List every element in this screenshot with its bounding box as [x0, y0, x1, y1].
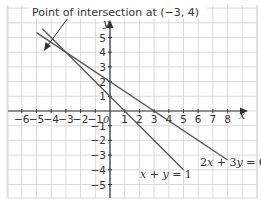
- svg-text:−3: −3: [58, 113, 73, 125]
- svg-text:−2: −2: [91, 134, 106, 146]
- svg-text:−5: −5: [91, 179, 106, 191]
- svg-text:−6: −6: [14, 113, 30, 125]
- svg-text:4: 4: [99, 46, 106, 58]
- svg-text:5: 5: [99, 32, 106, 44]
- svg-text:−3: −3: [91, 149, 106, 161]
- svg-text:5: 5: [180, 113, 187, 125]
- axes: [8, 20, 248, 198]
- svg-text:3: 3: [99, 61, 106, 73]
- line-label-x-plus-y: x + y = 1: [140, 168, 192, 181]
- intersection-annotation: Point of intersection at (−3, 4): [32, 6, 199, 19]
- x-axis-label: x: [239, 109, 246, 122]
- line-x-plus-y-eq-1: [42, 29, 183, 170]
- svg-text:−4: −4: [91, 164, 107, 176]
- svg-text:8: 8: [224, 113, 231, 125]
- svg-text:6: 6: [195, 113, 202, 125]
- svg-text:−5: −5: [29, 113, 44, 125]
- svg-text:1: 1: [121, 113, 128, 125]
- line-graph: −6−5−4−3−2−11234567854321−1−2−3−4−5 Poin…: [0, 0, 261, 208]
- plot-lines: [37, 29, 228, 170]
- line-label-2x-plus-3y: 2x + 3y = 6: [200, 156, 261, 169]
- svg-text:−4: −4: [43, 113, 59, 125]
- svg-text:3: 3: [151, 113, 158, 125]
- origin-label: 0: [103, 114, 110, 125]
- y-axis-label: y: [102, 17, 110, 30]
- svg-text:−2: −2: [73, 113, 88, 125]
- grid: [7, 5, 257, 198]
- svg-text:7: 7: [210, 113, 217, 125]
